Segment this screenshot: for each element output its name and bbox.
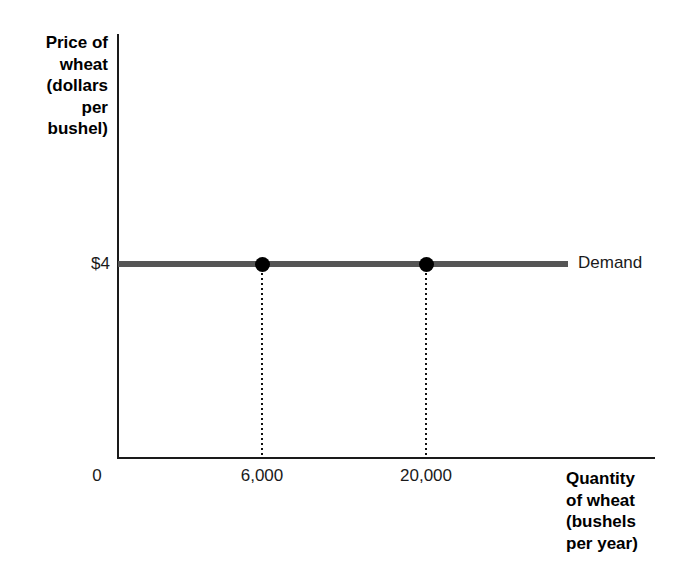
x-axis-tick-label-6000: 6,000: [222, 466, 302, 486]
data-point-20000: [419, 257, 434, 272]
y-axis-title: Price of wheat (dollars per bushel): [14, 32, 108, 140]
x-axis-title: Quantity of wheat (bushels per year): [566, 468, 678, 554]
drop-line-6000: [261, 268, 263, 458]
x-axis-line: [117, 457, 655, 459]
x-axis-tick-label-20000: 20,000: [381, 466, 471, 486]
demand-curve-line: [118, 261, 568, 267]
demand-curve-figure: Price of wheat (dollars per bushel) Quan…: [0, 0, 689, 578]
y-axis-tick-label-price: $4: [50, 254, 110, 274]
data-point-6000: [255, 257, 270, 272]
y-axis-line: [117, 34, 119, 459]
drop-line-20000: [425, 268, 427, 458]
demand-curve-label: Demand: [578, 253, 642, 273]
x-axis-tick-label-origin: 0: [72, 466, 122, 486]
